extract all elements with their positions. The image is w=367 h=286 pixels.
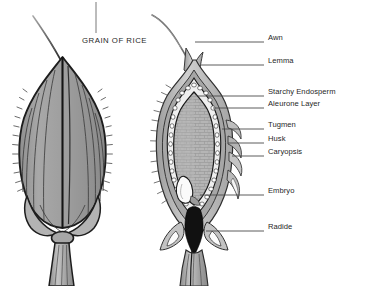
diagram-canvas: [0, 0, 367, 286]
label-caryopsis: Caryopsis: [268, 147, 302, 156]
label-starchy-endosperm: Starchy Endosperm: [268, 87, 336, 96]
cross-section-illustration: [151, 15, 242, 286]
section-awn-icon: [152, 15, 190, 65]
label-radide: Radide: [268, 222, 292, 231]
label-awn: Awn: [268, 33, 283, 42]
whole-grain-illustration: [13, 16, 113, 286]
rice-grain-diagram: AwnLemmaStarchy EndospermAleurone LayerT…: [0, 0, 367, 286]
label-lemma: Lemma: [268, 56, 294, 65]
label-tugmen: Tugmen: [268, 120, 296, 129]
figure-title: GRAIN OF RICE: [82, 36, 147, 45]
label-embryo: Embryo: [268, 186, 294, 195]
whole-grain-awn-icon: [33, 16, 64, 66]
label-husk: Husk: [268, 134, 286, 143]
section-radicle: [185, 207, 203, 256]
label-aleurone-layer: Aleurone Layer: [268, 99, 320, 108]
